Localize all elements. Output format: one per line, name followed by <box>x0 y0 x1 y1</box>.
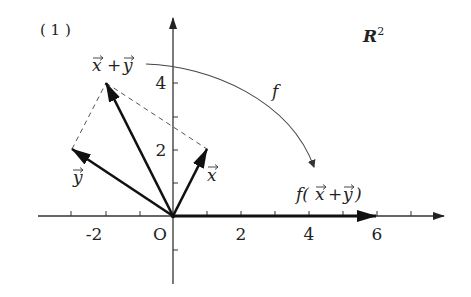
label-y: y <box>72 167 83 187</box>
y-axis-ticks <box>173 83 178 250</box>
svg-text:+: + <box>107 55 121 75</box>
svg-text:x: x <box>207 165 217 185</box>
label-f-x-plus-y: f( x + y ) <box>294 184 362 204</box>
label-x: x <box>207 165 218 186</box>
origin-label: O <box>153 224 167 244</box>
x-tick-label-neg2: -2 <box>86 224 103 244</box>
label-x-plus-y: x + y <box>92 55 134 75</box>
diagram-canvas: -2 2 4 6 2 4 O ( 1 ) R2 f x + y y x f( x <box>0 0 471 297</box>
space-label-r2: R2 <box>362 25 384 46</box>
svg-text:+: + <box>328 184 342 204</box>
origin-point <box>171 214 175 218</box>
svg-text:f(: f( <box>294 184 309 204</box>
map-label-f: f <box>270 81 281 101</box>
mapping-arc-f <box>146 64 314 167</box>
panel-label: ( 1 ) <box>40 21 71 39</box>
parallelogram-side-y-to-sum <box>72 83 106 149</box>
y-tick-label-2: 2 <box>156 140 167 160</box>
x-tick-label-4: 4 <box>304 224 315 244</box>
y-tick-label-4: 4 <box>156 73 167 93</box>
vector-x <box>173 149 207 216</box>
svg-text:): ) <box>354 184 362 204</box>
x-tick-label-2: 2 <box>236 224 247 244</box>
x-tick-label-6: 6 <box>372 224 383 244</box>
vector-diagram: -2 2 4 6 2 4 O ( 1 ) R2 f x + y y x f( x <box>0 0 471 297</box>
